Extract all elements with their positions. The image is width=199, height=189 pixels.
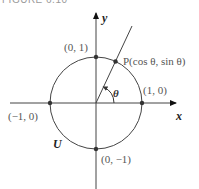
- point-bottom: [94, 147, 98, 151]
- label-left-point: (−1, 0): [8, 110, 38, 123]
- circle-label: U: [53, 137, 63, 151]
- label-point-P: P(cos θ, sin θ): [123, 55, 186, 68]
- point-left: [48, 101, 52, 105]
- angle-label: θ: [113, 87, 119, 99]
- point-P: [113, 59, 117, 63]
- label-top-point: (0, 1): [64, 41, 88, 54]
- label-bottom-point: (0, −1): [101, 153, 131, 166]
- x-axis-label: x: [175, 109, 182, 123]
- y-axis-label: y: [100, 11, 108, 25]
- point-right: [140, 101, 144, 105]
- label-right-point: (1, 0): [143, 84, 167, 97]
- unit-circle-diagram: y x (0, 1) (1, 0) (−1, 0) (0, −1) P(cos …: [0, 0, 199, 189]
- point-top: [94, 55, 98, 59]
